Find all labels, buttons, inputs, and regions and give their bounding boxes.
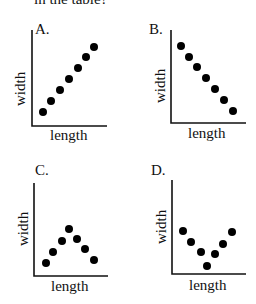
- plot-a: length width: [12, 30, 107, 143]
- plot-a-points: [39, 43, 98, 116]
- plot-d-points: [179, 227, 236, 270]
- scatter-plots-diagram: length width length width length width l…: [0, 0, 256, 304]
- plot-d-xlabel: length: [189, 277, 227, 293]
- plot-c-ylabel: width: [15, 211, 31, 246]
- plot-a-ylabel: width: [12, 71, 28, 106]
- plot-c-xlabel: length: [51, 278, 89, 294]
- plot-d-ylabel: width: [153, 209, 169, 244]
- plot-c: length width: [15, 183, 108, 294]
- plot-b-points: [177, 42, 237, 115]
- plot-a-xlabel: length: [50, 127, 88, 143]
- plot-d-axes: [172, 180, 246, 274]
- plot-d: length width: [153, 180, 246, 293]
- plot-c-points: [42, 225, 98, 267]
- plot-b-xlabel: length: [188, 125, 226, 141]
- plot-b: length width: [152, 30, 246, 141]
- plot-b-ylabel: width: [152, 68, 168, 103]
